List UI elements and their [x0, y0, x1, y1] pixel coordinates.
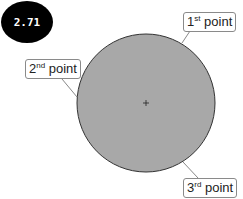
- leader-line-3: [183, 162, 198, 178]
- label-suffix: nd: [36, 61, 45, 70]
- label-word: point: [205, 180, 233, 195]
- label-second-point: 2nd point: [25, 59, 81, 79]
- label-suffix: st: [194, 14, 200, 23]
- label-suffix: rd: [194, 180, 201, 189]
- label-first-point: 1st point: [183, 12, 236, 32]
- label-third-point: 3rd point: [183, 178, 237, 198]
- label-word: point: [49, 61, 77, 76]
- leader-line-2: [62, 79, 77, 97]
- leader-line-1: [182, 31, 190, 43]
- label-word: point: [204, 14, 232, 29]
